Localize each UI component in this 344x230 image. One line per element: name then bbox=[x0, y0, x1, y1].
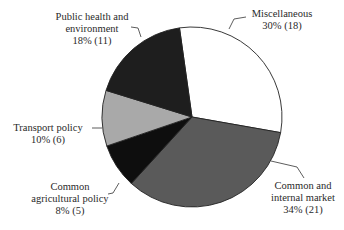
label-agri-value: 8% (5) bbox=[20, 205, 120, 217]
label-misc-value: 30% (18) bbox=[222, 20, 342, 32]
label-public-health-environment: Public health and environment 18% (11) bbox=[40, 11, 144, 47]
label-market-name-2: internal market bbox=[262, 192, 344, 204]
label-health-name-1: Public health and bbox=[40, 11, 144, 23]
label-common-internal-market: Common and internal market 34% (21) bbox=[262, 180, 344, 216]
label-common-agricultural-policy: Common agricultural policy 8% (5) bbox=[20, 181, 120, 217]
label-health-value: 18% (11) bbox=[40, 35, 144, 47]
label-market-name-1: Common and bbox=[262, 180, 344, 192]
label-miscellaneous: Miscellaneous 30% (18) bbox=[222, 8, 342, 32]
label-market-value: 34% (21) bbox=[262, 204, 344, 216]
label-transport-name: Transport policy bbox=[4, 122, 92, 134]
pie-slices bbox=[102, 27, 282, 207]
label-agri-name-2: agricultural policy bbox=[20, 193, 120, 205]
leader-line-market bbox=[271, 161, 304, 178]
label-misc-name: Miscellaneous bbox=[222, 8, 342, 20]
pie-slice-miscellaneous bbox=[179, 27, 282, 133]
label-transport-value: 10% (6) bbox=[4, 134, 92, 146]
label-transport-policy: Transport policy 10% (6) bbox=[4, 122, 92, 146]
label-agri-name-1: Common bbox=[20, 181, 120, 193]
label-health-name-2: environment bbox=[40, 23, 144, 35]
